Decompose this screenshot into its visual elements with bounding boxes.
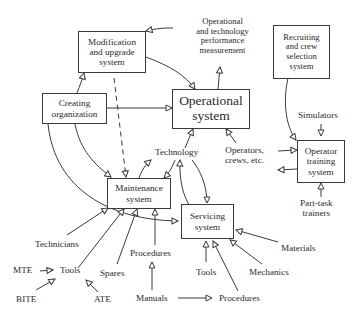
- operator-training-system-box: Operator training system: [297, 140, 345, 183]
- tools-right-label: Tools: [196, 267, 216, 277]
- operational-system-label: Operational system: [179, 94, 243, 124]
- tools-left-label: Tools: [60, 265, 80, 275]
- operational-system-box: Operational system: [172, 89, 250, 129]
- modification-system-box: Modification and upgrade system: [78, 31, 146, 73]
- mechanics-label: Mechanics: [249, 267, 289, 277]
- servicing-system-box: Servicing system: [181, 204, 234, 239]
- bite-label: BITE: [16, 294, 36, 304]
- creating-organization-label: Creating organization: [52, 98, 98, 119]
- recruiting-crew-selection-label: Recruiting and crew selection system: [283, 33, 319, 72]
- creating-organization-box: Creating organization: [42, 93, 107, 124]
- performance-measurement-label: Operational and technology performance m…: [180, 17, 265, 56]
- simulators-label: Simulators: [298, 110, 338, 120]
- modification-system-label: Modification and upgrade system: [88, 37, 136, 68]
- mte-label: MTE: [13, 265, 32, 275]
- maintenance-system-box: Maintenance system: [107, 178, 171, 209]
- manuals-label: Manuals: [136, 293, 168, 303]
- recruiting-crew-selection-box: Recruiting and crew selection system: [273, 25, 330, 79]
- maintenance-system-label: Maintenance system: [115, 183, 162, 204]
- technicians-label: Technicians: [35, 239, 79, 249]
- materials-label: Materials: [281, 243, 316, 253]
- operator-training-system-label: Operator training system: [305, 146, 338, 177]
- ate-label: ATE: [94, 294, 111, 304]
- procedures-bottom-label: Procedures: [219, 293, 260, 303]
- part-task-trainers-label: Part-task trainers: [300, 198, 333, 219]
- procedures-mid-label: Procedures: [130, 248, 171, 258]
- technology-label: Technology: [155, 147, 198, 157]
- servicing-system-label: Servicing system: [190, 211, 225, 232]
- spares-label: Spares: [100, 268, 125, 278]
- operators-crews-label: Operators, crews, etc.: [225, 145, 264, 166]
